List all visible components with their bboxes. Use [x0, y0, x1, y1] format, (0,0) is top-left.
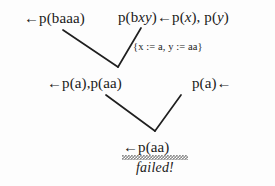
node-goal-a-aa-label: p(a),p(aa) [62, 75, 122, 91]
node-goal-baaa-label: p(baaa) [39, 10, 85, 26]
clause-body-first-open: p( [172, 9, 185, 25]
left-arrow-icon: ← [123, 139, 138, 155]
clause-body-second-close: ) [224, 9, 229, 25]
substitution-annotation: {x := a, y := aa} [133, 42, 203, 53]
node-fact-a-label: p(a) [192, 75, 217, 91]
clause-body-second-open: p( [204, 9, 217, 25]
clause-head-var-y: y [145, 9, 152, 25]
clause-body-first-close: ), [192, 9, 205, 25]
left-arrow-icon: ← [24, 10, 39, 26]
node-goal-a-aa: ←p(a),p(aa) [47, 76, 122, 91]
node-goal-baaa: ←p(baaa) [24, 11, 85, 26]
clause-body-var-x: x [185, 9, 192, 25]
edge-goal-baaa-to-goal-a-aa [63, 30, 118, 67]
node-clause-bxy: p(bxy)←p(x), p(y) [118, 10, 229, 25]
node-goal-aa-label: p(aa) [138, 139, 169, 155]
left-arrow-icon: ← [47, 75, 62, 91]
derivation-diagram: ←p(baaa) p(bxy)←p(x), p(y) {x := a, y :=… [0, 0, 275, 186]
clause-head-prefix: p(b [118, 9, 138, 25]
node-fact-a: p(a)← [192, 76, 232, 91]
left-arrow-icon: ← [217, 75, 232, 91]
failed-label: failed! [119, 161, 191, 175]
edge-goal-a-aa-to-goal-aa [106, 95, 155, 131]
failed-marker: failed! [119, 155, 191, 175]
edge-fact-a-to-goal-aa [155, 95, 181, 131]
left-arrow-icon: ← [157, 9, 172, 25]
clause-body-var-y: y [217, 9, 224, 25]
node-goal-aa: ←p(aa) [123, 140, 169, 155]
